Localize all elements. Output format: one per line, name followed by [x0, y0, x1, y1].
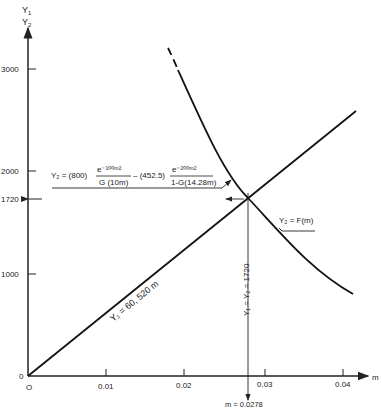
- y-tick-label-1000: 1000: [1, 270, 19, 279]
- y1-line-label: Y₁ = 60, 520 m: [108, 278, 160, 323]
- m-value-label: m = 0.0278: [225, 400, 263, 409]
- intersection-label: Y₁ = Y₂ = 1720: [242, 263, 251, 316]
- y-axis-label-y1: Y1: [22, 5, 32, 16]
- series-y2-dashed: [168, 48, 178, 70]
- x-tick-label-0: O: [26, 383, 32, 392]
- svg-text:Y₂ = (800): Y₂ = (800): [51, 171, 88, 180]
- f-of-m-label: Y₂ = F(m): [279, 216, 314, 225]
- y-tick-label-1720: 1720: [1, 195, 19, 204]
- x-tick-label-004: 0.04: [335, 380, 351, 389]
- svg-text:e⁻¹⁰⁰ᵐ²: e⁻¹⁰⁰ᵐ²: [97, 165, 122, 174]
- svg-text:– (452.5): – (452.5): [133, 171, 165, 180]
- svg-text:e⁻²⁰⁰ᵐ²: e⁻²⁰⁰ᵐ²: [172, 165, 197, 174]
- x-tick-label-001: 0.01: [98, 382, 114, 391]
- x-axis-label: m: [372, 373, 379, 382]
- y-axis-label-y2: Y2: [22, 17, 32, 28]
- x-tick-label-002: 0.02: [176, 381, 192, 390]
- svg-text:G (10m): G (10m): [99, 178, 129, 187]
- y-tick-label-0: 0: [19, 372, 24, 381]
- x-tick-label-003: 0.03: [257, 380, 273, 389]
- series-y1-line: [28, 111, 356, 376]
- y-tick-label-3000: 3000: [1, 65, 19, 74]
- svg-text:1-G(14.28m): 1-G(14.28m): [171, 178, 217, 187]
- equation-annotation: Y₂ = (800) e⁻¹⁰⁰ᵐ² G (10m) – (452.5) e⁻²…: [51, 165, 231, 188]
- y-tick-label-2000: 2000: [1, 167, 19, 176]
- chart: Y1 Y2 3000 2000 1720 1000 0 O 0.01 0.02 …: [0, 0, 381, 409]
